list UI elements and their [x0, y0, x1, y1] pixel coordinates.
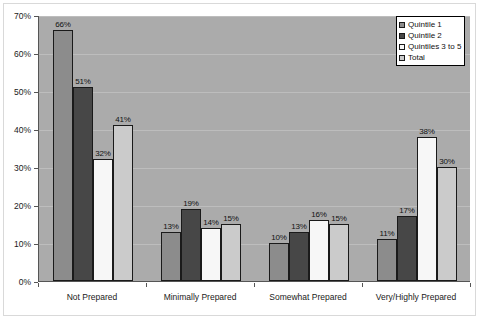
bar-value-label: 51% [69, 77, 97, 86]
y-axis-tick-label: 70% [0, 11, 31, 21]
y-axis-tick-label: 40% [0, 125, 31, 135]
bar [377, 239, 397, 281]
x-axis-tick-mark [38, 283, 39, 287]
legend-swatch-icon [399, 55, 405, 61]
legend-item-label: Quintile 1 [408, 20, 442, 29]
bar [221, 224, 241, 281]
x-axis-tick-mark [470, 283, 471, 287]
bar-value-label: 41% [109, 115, 137, 124]
legend-item-label: Quintile 2 [408, 31, 442, 40]
bar [269, 243, 289, 281]
legend-swatch-icon [399, 33, 405, 39]
y-axis-tick-label: 60% [0, 49, 31, 59]
chart-legend: Quintile 1Quintile 2Quintiles 3 to 5Tota… [396, 16, 465, 66]
x-axis-category-label: Very/Highly Prepared [362, 292, 470, 302]
y-axis-tick-label: 20% [0, 201, 31, 211]
y-axis-tick-label: 30% [0, 163, 31, 173]
bar-value-label: 38% [413, 127, 441, 136]
bar [201, 228, 221, 281]
x-axis-category-label: Minimally Prepared [146, 292, 254, 302]
bar-value-label: 15% [325, 214, 353, 223]
legend-item: Quintile 2 [399, 30, 461, 41]
bar [93, 159, 113, 281]
x-axis-tick-mark [254, 283, 255, 287]
legend-swatch-icon [399, 22, 405, 28]
chart-figure: 0%10%20%30%40%50%60%70% 66%51%32%41%13%1… [0, 0, 481, 322]
legend-item: Total [399, 52, 461, 63]
y-axis-tick-label: 0% [0, 277, 31, 287]
gridline [39, 92, 470, 93]
x-axis-tick-mark [362, 283, 363, 287]
bar [161, 232, 181, 281]
y-axis-tick-label: 50% [0, 87, 31, 97]
bar-value-label: 30% [433, 157, 461, 166]
gridline [39, 130, 470, 131]
bar-value-label: 15% [217, 214, 245, 223]
bar [397, 216, 417, 281]
bar [309, 220, 329, 281]
legend-item: Quintiles 3 to 5 [399, 41, 461, 52]
bar [73, 87, 93, 281]
bar-value-label: 66% [49, 20, 77, 29]
x-axis-category-label: Not Prepared [38, 292, 146, 302]
bar [329, 224, 349, 281]
x-axis-category-label: Somewhat Prepared [254, 292, 362, 302]
x-axis-tick-mark [146, 283, 147, 287]
bar [113, 125, 133, 281]
bar-value-label: 19% [177, 199, 205, 208]
bar [289, 232, 309, 281]
bar [437, 167, 457, 281]
bar [53, 30, 73, 281]
legend-item-label: Total [408, 53, 425, 62]
y-axis-tick-label: 10% [0, 239, 31, 249]
legend-item: Quintile 1 [399, 19, 461, 30]
legend-item-label: Quintiles 3 to 5 [408, 42, 461, 51]
legend-swatch-icon [399, 44, 405, 50]
